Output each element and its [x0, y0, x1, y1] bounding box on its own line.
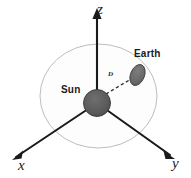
sun-label: Sun [61, 85, 81, 95]
sun-earth-coordinate-diagram: z x y Sun Earth D [0, 0, 191, 178]
y-axis-label: y [172, 156, 179, 171]
distance-label: D [108, 71, 113, 78]
z-axis-label: z [97, 2, 103, 17]
diagram-canvas [0, 0, 191, 178]
sun-body [84, 90, 111, 117]
earth-label: Earth [134, 49, 161, 59]
x-axis-label: x [18, 158, 25, 173]
